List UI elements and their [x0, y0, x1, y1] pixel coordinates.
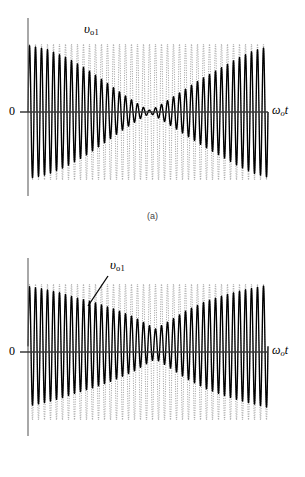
signal-trace-b	[28, 286, 268, 407]
x-axis-label-b: ωot	[272, 344, 288, 358]
plot-b	[0, 240, 305, 440]
signal-path-b	[28, 286, 268, 407]
panel-a: 0 υo1 ωot (a)	[0, 0, 305, 240]
signal-label-a: υo1	[84, 22, 99, 37]
panel-caption-a: (a)	[0, 211, 305, 221]
signal-label-a-sub: o1	[90, 27, 99, 37]
origin-label-a: 0	[9, 105, 15, 117]
origin-label-b: 0	[9, 345, 15, 357]
waveform-svg-a	[0, 0, 305, 200]
panel-b: 0 υo1 ωot (b)	[0, 240, 305, 477]
waveform-svg-b	[0, 240, 305, 440]
plot-a	[0, 0, 305, 200]
figure-root: 0 υo1 ωot (a) 0 υo1 ωot (b)	[0, 0, 305, 477]
x-axis-label-b-tail: t	[285, 343, 288, 357]
x-axis-label-a-tail: t	[285, 103, 288, 117]
leader-line-b	[88, 276, 108, 306]
x-axis-label-a: ωot	[272, 104, 288, 118]
signal-label-b-sub: o1	[116, 263, 125, 273]
signal-label-b: υo1	[110, 258, 125, 273]
